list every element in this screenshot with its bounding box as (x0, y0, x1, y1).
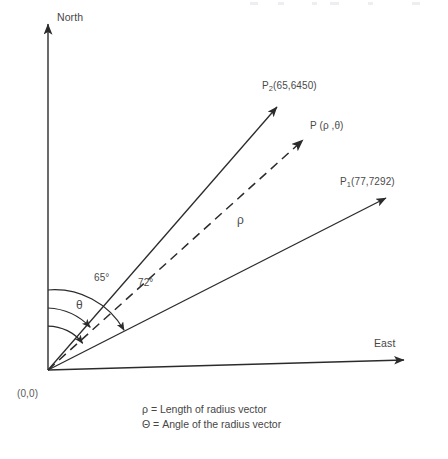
arc-65-degrees (48, 308, 90, 327)
polar-diagram: North East (0,0) P2(65,6450) P (ρ ,θ) P1… (0, 0, 448, 459)
point-p1-label: P1(77,7292) (340, 176, 395, 187)
point-p2-label: P2(65,6450) (262, 80, 317, 91)
caption-line-theta: Θ = Angle of the radius vector (142, 417, 281, 432)
point-p-label: P (ρ ,θ) (310, 120, 344, 131)
ray-p2 (48, 107, 277, 370)
point-p1-subscript: 1 (347, 180, 351, 189)
arc-theta (48, 326, 83, 343)
angle-65-label: 65° (94, 272, 109, 283)
diagram-canvas (0, 0, 448, 459)
ray-p-radius-vector (48, 140, 303, 370)
angle-72-label: 72° (138, 277, 153, 288)
point-p2-subscript: 2 (269, 84, 273, 93)
angle-theta-label: θ (76, 298, 83, 312)
point-p1-letter: P (340, 176, 347, 187)
east-axis-label: East (374, 337, 395, 349)
rho-length-label: ρ (237, 213, 244, 227)
caption-line-rho: ρ = Length of radius vector (142, 402, 281, 417)
point-p1-coords: (77,7292) (351, 176, 395, 187)
north-axis-label: North (57, 11, 83, 23)
point-p2-coords: (65,6450) (273, 80, 317, 91)
east-axis (48, 360, 404, 370)
origin-label: (0,0) (17, 388, 38, 399)
caption-block: ρ = Length of radius vector Θ = Angle of… (142, 402, 281, 432)
ray-p1 (48, 198, 386, 370)
point-p2-letter: P (262, 80, 269, 91)
